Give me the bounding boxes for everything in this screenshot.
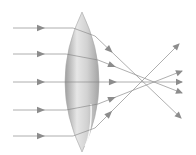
- arrow-icon: [175, 68, 184, 77]
- lens-diagram: [0, 0, 196, 155]
- arrow-icon: [109, 79, 117, 85]
- arrow-icon: [176, 79, 183, 85]
- arrow-icon: [175, 88, 184, 97]
- arrow-icon: [37, 133, 45, 139]
- arrow-icon: [37, 79, 45, 85]
- arrow-icon: [107, 94, 117, 103]
- convex-lens-ray-diagram: [0, 0, 196, 155]
- arrow-icon: [37, 107, 45, 113]
- arrow-icon: [37, 25, 45, 31]
- arrow-icon: [37, 51, 45, 57]
- arrow-icon: [107, 61, 117, 70]
